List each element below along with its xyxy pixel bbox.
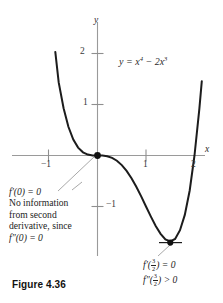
figure-caption: Figure 4.36 xyxy=(12,279,66,290)
origin-note-line-1: f′(0) = 0 xyxy=(9,186,113,197)
figure-container: y x 2 1 −1 −1 1 2 y = x4 − 2x3 f′(0) = 0… xyxy=(0,0,223,303)
minimum-note-line-1: f′(32) = 0 xyxy=(143,258,177,273)
equation-lhs: y = x xyxy=(119,56,140,67)
origin-note-line-2: No information xyxy=(9,197,113,208)
equation-exponent-2: 3 xyxy=(164,55,167,62)
min-note-2-post: ) > 0 xyxy=(158,274,177,285)
graph-canvas xyxy=(0,0,223,303)
origin-note-line-4: derivative, since xyxy=(9,220,113,231)
minimum-leader-line xyxy=(158,245,170,256)
origin-note-line-5: f″(0) = 0 xyxy=(9,232,113,243)
min-note-1-fraction: 32 xyxy=(151,258,155,272)
origin-note-line-3: from second xyxy=(9,209,113,220)
min-note-2-fraction: 32 xyxy=(153,273,157,287)
y-tick-label-1: 1 xyxy=(83,98,88,108)
x-axis-label: x xyxy=(205,145,209,155)
origin-point-dot xyxy=(94,152,101,159)
min-note-1-pre: f′( xyxy=(143,259,151,270)
minimum-point-dot xyxy=(167,240,173,246)
min-note-2-pre: f″( xyxy=(143,274,153,285)
minimum-note-line-2: f″(32) > 0 xyxy=(143,273,177,288)
y-axis-label: y xyxy=(94,16,98,26)
x-tick-label-2: 2 xyxy=(191,160,196,170)
min-note-2-denominator: 2 xyxy=(153,281,157,288)
equation-label: y = x4 − 2x3 xyxy=(119,56,167,67)
y-tick-label-2: 2 xyxy=(80,47,85,57)
min-note-1-post: ) = 0 xyxy=(156,259,175,270)
minimum-annotation: f′(32) = 0 f″(32) > 0 xyxy=(143,258,177,288)
x-tick-label-1: 1 xyxy=(143,160,148,170)
origin-annotation: f′(0) = 0 No information from second der… xyxy=(9,186,113,243)
equation-mid: − 2x xyxy=(143,56,164,67)
x-tick-label-minus1: −1 xyxy=(41,160,51,170)
